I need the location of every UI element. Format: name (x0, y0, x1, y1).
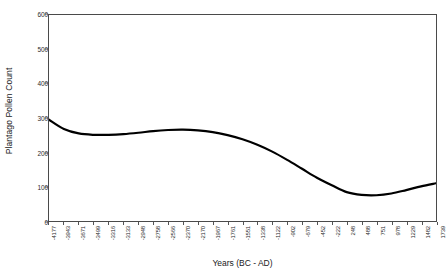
x-tick-label: 248 (350, 226, 356, 235)
y-axis-title-text: Plantago Pollen Count (4, 68, 14, 155)
x-tick-mark (213, 222, 214, 225)
x-tick-mark (347, 222, 348, 225)
x-tick-label: 978 (395, 226, 401, 235)
x-tick-label: -1551 (245, 226, 251, 240)
x-tick-label: -3133 (125, 226, 131, 240)
x-tick-mark (243, 222, 244, 225)
x-tick-mark (48, 222, 49, 225)
x-tick-mark (183, 222, 184, 225)
x-tick-label: -2948 (140, 226, 146, 240)
x-tick-mark (198, 222, 199, 225)
x-tick-label: -1967 (215, 226, 221, 240)
x-tick-label: -2566 (170, 226, 176, 240)
x-tick-mark (257, 222, 258, 225)
y-tick-label: 400 (22, 80, 48, 87)
x-tick-mark (362, 222, 363, 225)
x-tick-label: -3943 (65, 226, 71, 240)
x-tick-mark (377, 222, 378, 225)
x-tick-label: -4177 (51, 226, 57, 240)
plot-area (48, 14, 437, 222)
x-tick-label: -2170 (200, 226, 206, 240)
x-tick-label: 1739 (440, 226, 446, 239)
series-line-plantago-pollen-count (49, 15, 436, 221)
x-tick-mark (123, 222, 124, 225)
y-axis-ticks: 0100200300400500600 (18, 0, 48, 280)
x-tick-mark (272, 222, 273, 225)
x-tick-label: -3316 (110, 226, 116, 240)
x-axis-title: Years (BC - AD) (48, 258, 437, 268)
x-tick-mark (437, 222, 438, 225)
x-tick-label: 488 (365, 226, 371, 235)
x-tick-mark (138, 222, 139, 225)
x-tick-mark (228, 222, 229, 225)
y-tick-label: 0 (22, 219, 48, 226)
x-tick-label: -2370 (185, 226, 191, 240)
x-tick-mark (78, 222, 79, 225)
x-tick-mark (407, 222, 408, 225)
x-tick-mark (392, 222, 393, 225)
x-tick-mark (168, 222, 169, 225)
x-tick-mark (108, 222, 109, 225)
x-tick-label: -3671 (80, 226, 86, 240)
x-tick-mark (93, 222, 94, 225)
x-tick-label: -1338 (260, 226, 266, 240)
y-tick-label: 500 (22, 45, 48, 52)
x-axis-ticks: -4177-3943-3671-3499-3316-3133-2948-2758… (48, 222, 437, 280)
x-tick-mark (317, 222, 318, 225)
x-tick-mark (153, 222, 154, 225)
x-tick-mark (422, 222, 423, 225)
y-axis-title: Plantago Pollen Count (0, 0, 18, 222)
y-tick-label: 600 (22, 11, 48, 18)
y-tick-label: 100 (22, 184, 48, 191)
x-tick-label: 751 (380, 226, 386, 235)
x-tick-label: -1122 (275, 226, 281, 240)
y-tick-label: 300 (22, 115, 48, 122)
x-tick-mark (302, 222, 303, 225)
pollen-count-line-chart: Plantago Pollen Count 010020030040050060… (0, 0, 448, 280)
x-tick-label: -452 (320, 226, 326, 237)
x-tick-label: -3499 (95, 226, 101, 240)
x-tick-mark (63, 222, 64, 225)
x-tick-mark (332, 222, 333, 225)
x-tick-mark (287, 222, 288, 225)
x-tick-label: 1482 (425, 226, 431, 239)
x-tick-label: -1761 (230, 226, 236, 240)
y-tick-label: 200 (22, 149, 48, 156)
x-tick-label: -222 (335, 226, 341, 237)
x-tick-label: 1229 (410, 226, 416, 239)
x-tick-label: -902 (290, 226, 296, 237)
x-tick-label: -2758 (155, 226, 161, 240)
x-tick-label: -679 (305, 226, 311, 237)
